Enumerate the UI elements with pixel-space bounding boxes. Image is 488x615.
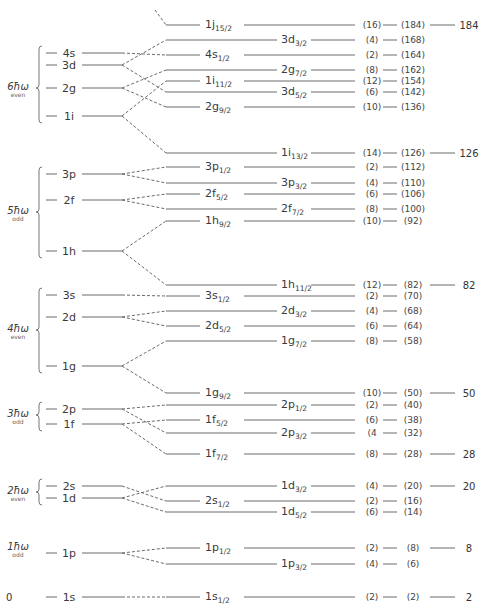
level-label: 3d5/2 bbox=[281, 85, 307, 100]
level-1g-9-2: 1g9/2(10)(50)50 bbox=[122, 366, 475, 401]
cumulative-value: (126) bbox=[401, 148, 425, 158]
connector-dashed bbox=[122, 88, 166, 107]
cumulative-value: (168) bbox=[401, 35, 425, 45]
orbital-label: 1i bbox=[64, 110, 74, 123]
cumulative-value: (6) bbox=[407, 559, 420, 569]
level-2f-5-2: 2f5/2(6)(106) bbox=[122, 187, 425, 202]
level-2d-5-2: 2d5/2(6)(64) bbox=[122, 317, 422, 334]
connector-dashed bbox=[122, 424, 166, 454]
connector-dashed bbox=[122, 405, 166, 409]
degeneracy-value: (6) bbox=[366, 87, 379, 97]
degeneracy-value: (2) bbox=[366, 162, 379, 172]
magic-number: 184 bbox=[459, 20, 478, 31]
orbital-label: 1f bbox=[64, 418, 76, 431]
level-label: 1j15/2 bbox=[205, 18, 232, 33]
cumulative-value: (40) bbox=[404, 400, 422, 410]
cumulative-value: (92) bbox=[404, 216, 422, 226]
level-label: 4s1/2 bbox=[205, 48, 230, 63]
orbital-label: 1s bbox=[63, 591, 76, 604]
level-label: 3d3/2 bbox=[281, 33, 307, 48]
orbital-label: 1g bbox=[62, 360, 76, 373]
level-1p-3-2: 1p3/2(4)(6) bbox=[122, 553, 419, 572]
shell-energy-label: 0 bbox=[6, 592, 12, 603]
level-label: 1i13/2 bbox=[281, 146, 308, 161]
level-2d-3-2: 2d3/2(4)(68) bbox=[122, 304, 422, 319]
shell-parity-label: even bbox=[11, 333, 26, 340]
connector-dashed bbox=[122, 53, 166, 55]
degeneracy-value: (8) bbox=[366, 449, 379, 459]
shell-brace bbox=[36, 479, 42, 505]
level-2p-3-2: 2p3/2(4(32) bbox=[122, 409, 422, 441]
degeneracy-value: (4) bbox=[366, 178, 379, 188]
cumulative-value: (38) bbox=[404, 415, 422, 425]
degeneracy-value: (4) bbox=[366, 35, 379, 45]
degeneracy-value: (8) bbox=[366, 204, 379, 214]
level-label: 2p3/2 bbox=[281, 426, 307, 441]
cumulative-value: (28) bbox=[404, 449, 422, 459]
cumulative-value: (82) bbox=[404, 280, 422, 290]
shell-parity-label: odd bbox=[12, 418, 23, 425]
level-label: 3s1/2 bbox=[205, 289, 230, 304]
level-label: 3p3/2 bbox=[281, 176, 307, 191]
level-label: 1p3/2 bbox=[281, 557, 307, 572]
shell-group: 01s bbox=[6, 591, 122, 604]
level-label: 1h11/2 bbox=[281, 278, 312, 293]
diagram-canvas: 01s1ħωodd1p2ħωeven2s1d3ħωodd2p1f4ħωeven3… bbox=[0, 0, 488, 615]
level-1h-11-2: 1h11/2(12)(82)82 bbox=[122, 251, 475, 293]
level-label: 1f7/2 bbox=[205, 447, 228, 462]
degeneracy-value: (6) bbox=[366, 415, 379, 425]
degeneracy-value: (4 bbox=[367, 428, 377, 438]
shell-brace bbox=[36, 288, 42, 373]
degeneracy-value: (4) bbox=[366, 306, 379, 316]
level-1s-1-2: 1s1/2(2)(2)2 bbox=[122, 590, 472, 605]
connector-dashed bbox=[122, 116, 166, 153]
degeneracy-value: (2) bbox=[366, 400, 379, 410]
cumulative-value: (32) bbox=[404, 428, 422, 438]
connector-dashed bbox=[122, 498, 166, 512]
level-label: 1i11/2 bbox=[205, 74, 232, 89]
cumulative-value: (164) bbox=[401, 50, 425, 60]
connector-dashed bbox=[122, 548, 166, 553]
orbital-label: 1h bbox=[62, 245, 76, 258]
level-3s-1-2: 3s1/2(2)(70) bbox=[122, 289, 422, 304]
orbital-label: 2g bbox=[62, 82, 76, 95]
degeneracy-value: (14) bbox=[363, 148, 381, 158]
cumulative-value: (110) bbox=[401, 178, 425, 188]
cumulative-value: (112) bbox=[401, 162, 425, 172]
cumulative-value: (58) bbox=[404, 336, 422, 346]
level-1i-13-2: 1i13/2(14)(126)126 bbox=[122, 116, 479, 161]
level-label: 1g9/2 bbox=[205, 386, 231, 401]
orbital-label: 2p bbox=[62, 403, 76, 416]
level-label: 2g9/2 bbox=[205, 100, 231, 115]
degeneracy-value: (2) bbox=[366, 543, 379, 553]
degeneracy-value: (2) bbox=[366, 50, 379, 60]
degeneracy-value: (16) bbox=[363, 20, 381, 30]
shell-group: 3ħωodd2p1f bbox=[7, 402, 122, 431]
magic-number: 20 bbox=[463, 481, 476, 492]
degeneracy-value: (10) bbox=[363, 102, 381, 112]
degeneracy-value: (6) bbox=[366, 189, 379, 199]
level-label: 1p1/2 bbox=[205, 541, 231, 556]
cumulative-value: (184) bbox=[401, 20, 425, 30]
connector-dashed bbox=[122, 40, 166, 65]
level-3p-1-2: 3p1/2(2)(112) bbox=[122, 160, 425, 175]
orbital-label: 3d bbox=[62, 59, 76, 72]
cumulative-value: (154) bbox=[401, 76, 425, 86]
level-3d-3-2: 3d3/2(4)(168) bbox=[122, 33, 425, 65]
degeneracy-value: (2) bbox=[366, 496, 379, 506]
level-2p-1-2: 2p1/2(2)(40) bbox=[122, 398, 422, 413]
connector-dashed bbox=[122, 194, 166, 200]
orbital-label: 2f bbox=[64, 194, 76, 207]
connector-dashed bbox=[122, 486, 166, 501]
shell-brace bbox=[36, 402, 42, 431]
connector-dashed bbox=[122, 167, 166, 174]
level-label: 1g7/2 bbox=[281, 334, 307, 349]
connector-dashed bbox=[122, 81, 166, 116]
degeneracy-value: (6) bbox=[366, 507, 379, 517]
magic-number: 2 bbox=[466, 592, 472, 603]
cumulative-value: (8) bbox=[407, 543, 420, 553]
level-1p-1-2: 1p1/2(2)(8)8 bbox=[122, 541, 472, 556]
magic-number: 8 bbox=[466, 543, 472, 554]
cumulative-value: (70) bbox=[404, 291, 422, 301]
shell-group: 4ħωeven3s2d1g bbox=[7, 288, 122, 373]
